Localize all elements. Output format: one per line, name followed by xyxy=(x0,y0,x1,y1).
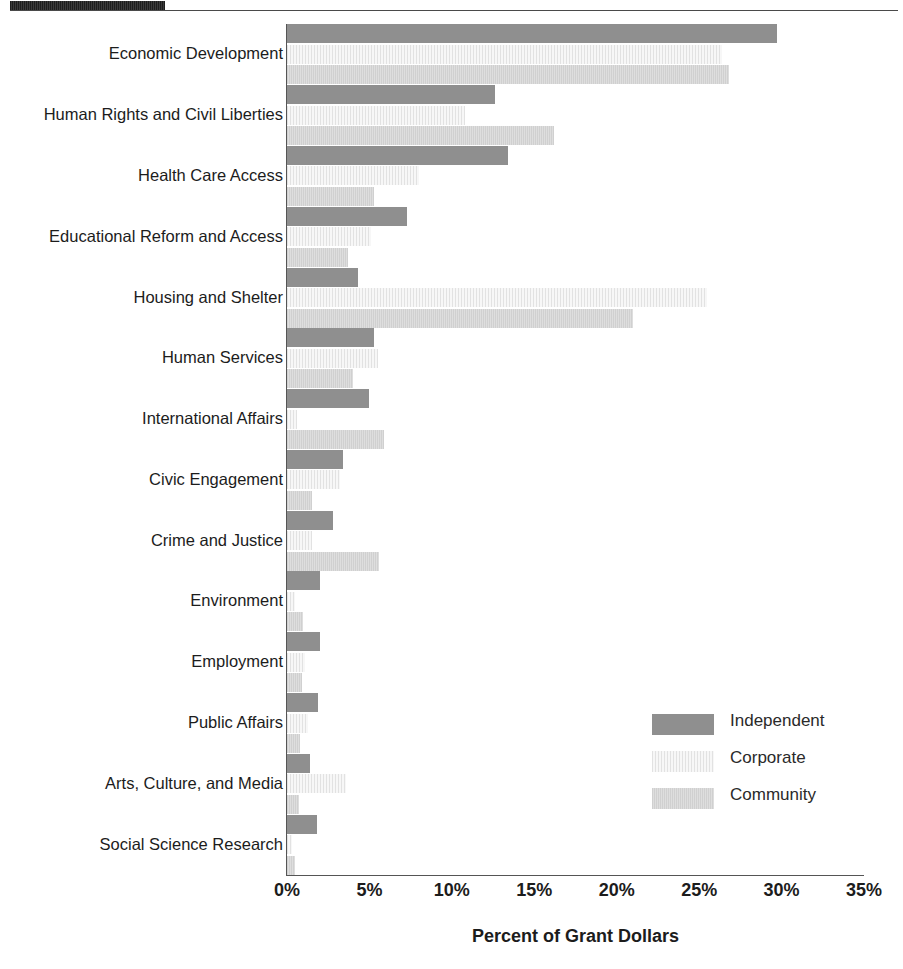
category-label: Educational Reform and Access xyxy=(3,227,283,246)
bar-corporate xyxy=(287,531,312,550)
bar-community xyxy=(287,795,299,814)
horizontal-rule xyxy=(10,10,898,11)
category-label: Environment xyxy=(3,591,283,610)
bar-independent xyxy=(287,450,343,469)
bar-independent xyxy=(287,511,333,530)
scan-smudge xyxy=(10,1,165,10)
bar-group xyxy=(287,389,864,450)
x-tick-label: 10% xyxy=(434,880,470,901)
bar-community xyxy=(287,552,379,571)
bar-group xyxy=(287,814,864,875)
legend-label: Community xyxy=(730,785,816,805)
legend-label: Corporate xyxy=(730,748,806,768)
x-axis-title: Percent of Grant Dollars xyxy=(287,926,864,947)
bar-group xyxy=(287,267,864,328)
bar-community xyxy=(287,248,348,267)
bar-corporate xyxy=(287,835,292,854)
chart-legend: IndependentCorporateCommunity xyxy=(652,710,882,821)
bar-group xyxy=(287,450,864,511)
category-label: Arts, Culture, and Media xyxy=(3,774,283,793)
bar-independent xyxy=(287,85,495,104)
bar-corporate xyxy=(287,714,308,733)
x-axis-line xyxy=(286,875,864,876)
bar-community xyxy=(287,369,353,388)
category-label: International Affairs xyxy=(3,409,283,428)
bar-corporate xyxy=(287,592,295,611)
bar-corporate xyxy=(287,227,371,246)
bar-corporate xyxy=(287,45,722,64)
legend-swatch-corporate xyxy=(652,751,714,772)
bar-corporate xyxy=(287,166,419,185)
bar-independent xyxy=(287,328,374,347)
bar-group xyxy=(287,328,864,389)
bar-group xyxy=(287,632,864,693)
category-label: Housing and Shelter xyxy=(3,288,283,307)
bar-corporate xyxy=(287,653,305,672)
category-label: Civic Engagement xyxy=(3,470,283,489)
x-tick-label: 15% xyxy=(516,880,552,901)
legend-item: Independent xyxy=(652,710,882,747)
bar-community xyxy=(287,491,312,510)
x-tick-label: 30% xyxy=(764,880,800,901)
scan-artifacts xyxy=(0,0,903,14)
bar-independent xyxy=(287,268,358,287)
grouped-bar-chart: Economic DevelopmentHuman Rights and Civ… xyxy=(0,14,903,969)
bar-independent xyxy=(287,146,508,165)
bar-group xyxy=(287,571,864,632)
bar-corporate xyxy=(287,288,707,307)
category-label: Human Services xyxy=(3,348,283,367)
bar-corporate xyxy=(287,349,378,368)
bar-community xyxy=(287,430,384,449)
legend-swatch-community xyxy=(652,788,714,809)
bar-community xyxy=(287,612,303,631)
bar-group xyxy=(287,146,864,207)
legend-label: Independent xyxy=(730,711,825,731)
legend-swatch-independent xyxy=(652,714,714,735)
bar-community xyxy=(287,309,633,328)
legend-item: Community xyxy=(652,784,882,821)
bar-independent xyxy=(287,632,320,651)
x-axis-tick-labels: 0%5%10%15%20%25%30%35% xyxy=(287,880,887,908)
category-label: Crime and Justice xyxy=(3,531,283,550)
bar-group xyxy=(287,24,864,85)
bar-corporate xyxy=(287,774,346,793)
bar-independent xyxy=(287,24,777,43)
category-label: Economic Development xyxy=(3,44,283,63)
bar-community xyxy=(287,673,302,692)
x-tick-label: 0% xyxy=(274,880,300,901)
bar-corporate xyxy=(287,410,297,429)
bar-group xyxy=(287,85,864,146)
bar-corporate xyxy=(287,470,340,489)
x-tick-label: 25% xyxy=(681,880,717,901)
category-label: Health Care Access xyxy=(3,166,283,185)
bar-independent xyxy=(287,389,369,408)
bar-independent xyxy=(287,207,407,226)
bar-group xyxy=(287,206,864,267)
x-tick-label: 35% xyxy=(846,880,882,901)
bar-community xyxy=(287,187,374,206)
legend-item: Corporate xyxy=(652,747,882,784)
x-tick-label: 5% xyxy=(356,880,382,901)
bar-community xyxy=(287,126,554,145)
bar-community xyxy=(287,856,295,875)
bar-independent xyxy=(287,693,318,712)
bar-community xyxy=(287,734,300,753)
bar-independent xyxy=(287,571,320,590)
category-label: Social Science Research xyxy=(3,835,283,854)
bar-independent xyxy=(287,815,317,834)
category-label: Public Affairs xyxy=(3,713,283,732)
bar-community xyxy=(287,65,729,84)
bar-group xyxy=(287,510,864,571)
category-label: Employment xyxy=(3,652,283,671)
bar-independent xyxy=(287,754,310,773)
category-label: Human Rights and Civil Liberties xyxy=(3,105,283,124)
category-axis-labels: Economic DevelopmentHuman Rights and Civ… xyxy=(0,24,283,875)
x-tick-label: 20% xyxy=(599,880,635,901)
bar-corporate xyxy=(287,106,465,125)
